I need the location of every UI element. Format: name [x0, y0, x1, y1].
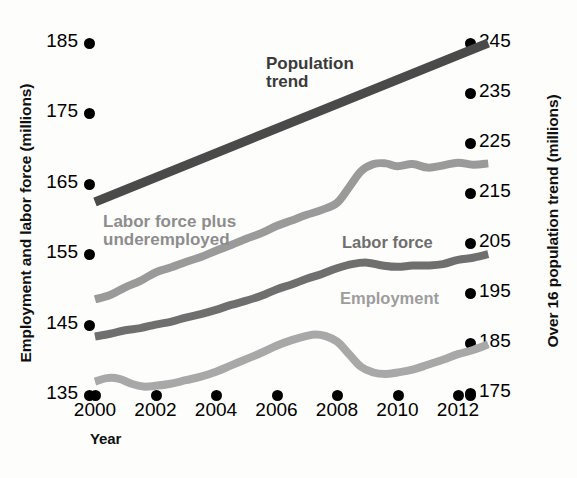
y-axis-left-title: Employment and labor force (millions) — [17, 23, 35, 423]
x-axis-tick-dot — [465, 390, 476, 401]
annotation-labor-force-plus-underemployed: Labor force plus underemployed — [103, 213, 236, 250]
y-axis-right-title: Over 16 population trend (millions) — [544, 21, 562, 421]
y-axis-left-tick-dot — [84, 320, 95, 331]
y-axis-right-tick-dot — [465, 88, 476, 99]
y-axis-right-tick-label: 245 — [479, 30, 511, 52]
y-axis-left-tick-label: 165 — [22, 171, 78, 193]
y-axis-right-tick-label: 225 — [479, 130, 511, 152]
y-axis-left-tick-label: 175 — [22, 100, 78, 122]
annotation-population-trend: Population trend — [266, 55, 354, 92]
y-axis-right-tick-label: 205 — [479, 230, 511, 252]
y-axis-right-tick-dot — [465, 338, 476, 349]
y-axis-left-tick-dot — [84, 108, 95, 119]
x-axis-tick-label: 2000 — [74, 399, 116, 421]
annotation-labor-force: Labor force — [342, 234, 433, 252]
y-axis-left-tick-dot — [84, 249, 95, 260]
chart-container: Employment and labor force (millions) Ov… — [0, 0, 577, 478]
y-axis-right-tick-dot — [465, 38, 476, 49]
x-axis-tick-label: 2004 — [195, 399, 237, 421]
y-axis-right-tick-dot — [465, 288, 476, 299]
y-axis-left-tick-dot — [84, 38, 95, 49]
y-axis-left-tick-dot — [84, 179, 95, 190]
y-axis-right-tick-label: 215 — [479, 180, 511, 202]
y-axis-right-tick-label: 235 — [479, 80, 511, 102]
x-axis-tick-label: 2010 — [376, 399, 418, 421]
y-axis-right-tick-label: 185 — [479, 330, 511, 352]
series-line-employment — [95, 334, 488, 386]
y-axis-right-tick-label: 175 — [479, 380, 511, 402]
x-axis-tick-label: 2008 — [316, 399, 358, 421]
y-axis-left-tick-label: 145 — [22, 312, 78, 334]
y-axis-left-tick-label: 185 — [22, 30, 78, 52]
y-axis-right-tick-label: 195 — [479, 280, 511, 302]
x-axis-tick-label: 2012 — [437, 399, 479, 421]
x-axis-title: Year — [90, 430, 121, 447]
x-axis-tick-label: 2002 — [134, 399, 176, 421]
y-axis-left-tick-label: 135 — [22, 382, 78, 404]
y-axis-left-tick-label: 155 — [22, 241, 78, 263]
y-axis-right-tick-dot — [465, 188, 476, 199]
y-axis-right-tick-dot — [465, 138, 476, 149]
annotation-employment: Employment — [340, 290, 439, 308]
y-axis-right-tick-dot — [465, 238, 476, 249]
x-axis-tick-label: 2006 — [255, 399, 297, 421]
